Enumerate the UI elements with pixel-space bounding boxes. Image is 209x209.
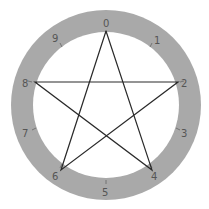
label-5: 5 [102,187,108,198]
label-9: 9 [52,33,58,44]
label-2: 2 [181,78,187,89]
label-4: 4 [151,171,157,182]
label-3: 3 [181,128,187,139]
label-6: 6 [52,171,58,182]
label-0: 0 [103,18,109,29]
label-7: 7 [22,128,28,139]
inner-disc [33,32,179,178]
label-8: 8 [22,78,28,89]
label-1: 1 [154,35,160,46]
pentagram-diagram: 0 1 2 3 4 5 6 7 8 9 [0,0,209,209]
